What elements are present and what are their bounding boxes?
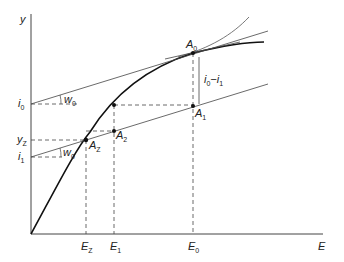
dashed-guides [31,53,193,234]
angle-arc-upper [60,95,61,104]
production-curve [31,42,264,234]
label-a1: A1 [195,108,206,121]
label-a2: A2 [116,130,127,143]
angle-label-lower: w0 [63,147,75,160]
diagram: y E i0 yZ i1 EZ E1 E0 A0 A1 A2 AZ w0 w0 … [0,0,344,262]
x-tick-ez: EZ [81,241,93,254]
label-az: AZ [89,140,101,153]
x-axis-label: E [318,241,325,252]
y-axis-label: y [20,14,26,25]
x-tick-e1: E1 [110,241,121,254]
label-a0: A0 [186,39,197,52]
point-curve-e1 [112,103,116,107]
angle-arc-lower [60,148,61,157]
point-az [84,138,88,142]
y-tick-i0: i0 [18,98,24,111]
bracket-label: i0−i1 [204,74,223,87]
tangent-a0 [165,42,240,59]
angle-label-upper: w0 [64,94,76,107]
y-tick-yz: yZ [17,134,27,147]
diagram-canvas [0,0,344,262]
x-tick-e0: E0 [188,241,199,254]
y-tick-i1: i1 [18,151,24,164]
